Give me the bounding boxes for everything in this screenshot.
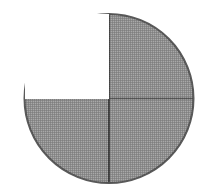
- quadrant-upper-left: [25, 14, 110, 99]
- fraction-circle-figure: [0, 0, 215, 193]
- circle-diagram-svg: [0, 0, 215, 193]
- quadrant-lower-left: [25, 99, 110, 184]
- quadrant-upper-right: [109, 14, 194, 99]
- quadrant-lower-right: [109, 99, 194, 184]
